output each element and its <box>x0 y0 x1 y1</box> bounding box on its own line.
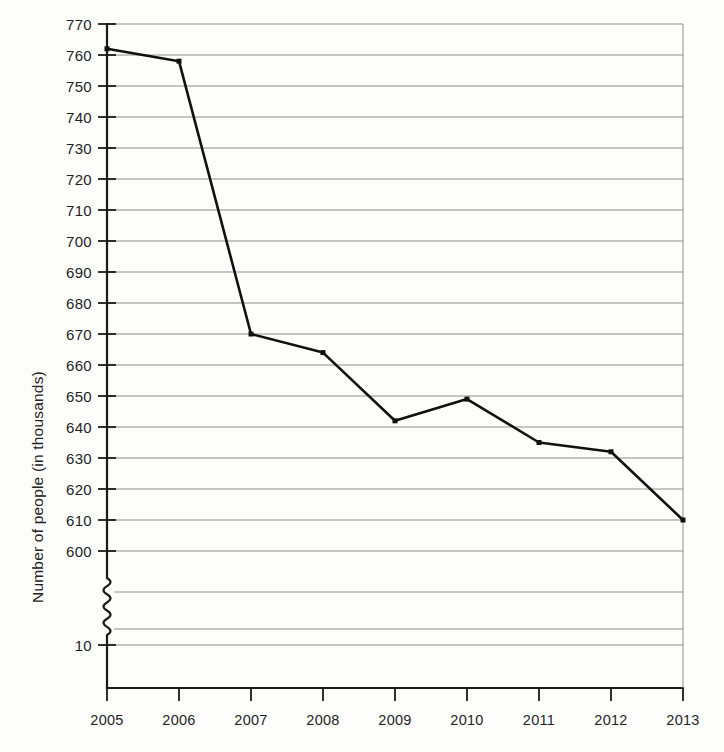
data-point-marker <box>537 440 542 445</box>
data-point-marker <box>465 397 470 402</box>
data-point-marker <box>105 46 110 51</box>
series-polyline <box>107 49 683 520</box>
data-series-line <box>107 49 683 520</box>
y-axis-break-symbol <box>100 578 114 635</box>
data-point-marker <box>177 59 182 64</box>
line-chart-figure: Number of people (in thousands) 77076075… <box>0 0 724 752</box>
data-point-marker <box>681 518 686 523</box>
data-point-marker <box>321 350 326 355</box>
axis-tick-marks <box>98 24 683 701</box>
data-point-marker <box>393 418 398 423</box>
data-point-marker <box>609 449 614 454</box>
axes <box>107 24 683 688</box>
data-point-marker <box>249 332 254 337</box>
plot-area <box>0 0 724 752</box>
